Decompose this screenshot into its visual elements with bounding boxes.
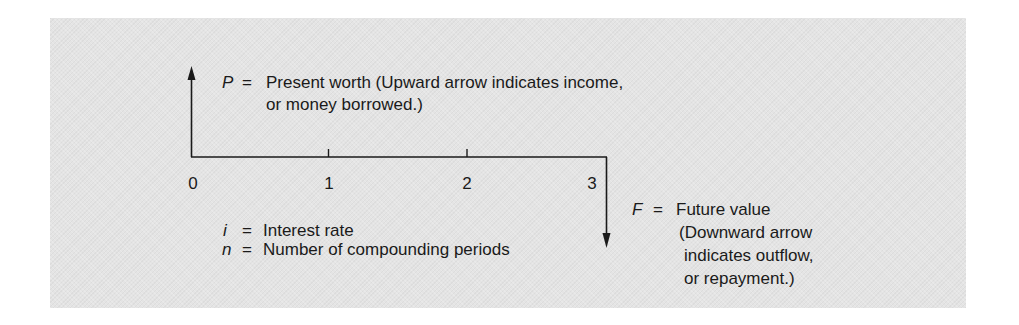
legend-text-compounding-periods: Number of compounding periods: [263, 239, 510, 260]
future-value-line-3: indicates outflow,: [684, 245, 813, 266]
cash-flow-diagram: [0, 0, 1019, 325]
down-arrow-icon: [603, 157, 611, 248]
up-arrow-icon: [188, 66, 196, 157]
present-worth-line-2: or money borrowed.): [266, 94, 423, 115]
tick-label-0: 0: [183, 174, 203, 194]
legend-equals-i: =: [242, 220, 252, 241]
present-worth-line-1: Present worth (Upward arrow indicates in…: [266, 72, 623, 93]
future-value-symbol: F: [632, 199, 642, 220]
present-worth-symbol: P: [222, 72, 233, 93]
present-worth-equals: =: [242, 72, 252, 93]
tick-label-1: 1: [319, 174, 339, 194]
tick-label-2: 2: [457, 174, 477, 194]
tick-label-3: 3: [582, 174, 602, 194]
future-value-equals: =: [653, 199, 663, 220]
legend-text-interest-rate: Interest rate: [263, 220, 354, 241]
future-value-line-2: (Downward arrow: [679, 222, 812, 243]
legend-equals-n: =: [242, 239, 252, 260]
future-value-line-4: or repayment.): [684, 268, 795, 289]
legend-symbol-i: i: [223, 220, 227, 241]
legend-symbol-n: n: [222, 239, 231, 260]
future-value-line-1: Future value: [676, 199, 771, 220]
